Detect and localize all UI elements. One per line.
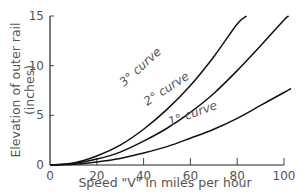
y-axis-label: Elevation of outer rail bbox=[8, 22, 23, 157]
y-axis-units: (inches) bbox=[22, 65, 37, 115]
x-tick-label: 0 bbox=[46, 169, 54, 183]
curve-labels: 3° curve2° curve1° curve bbox=[117, 45, 219, 129]
curve-label: 2° curve bbox=[141, 69, 191, 109]
y-tick-label: 0 bbox=[36, 158, 44, 172]
curve-label: 3° curve bbox=[117, 45, 164, 90]
y-tick-label: 5 bbox=[36, 108, 44, 122]
elevation-chart: 020406080100051015 3° curve2° curve1° cu… bbox=[0, 0, 307, 195]
y-tick-label: 15 bbox=[29, 9, 44, 23]
x-tick-label: 100 bbox=[273, 169, 296, 183]
x-axis-label: Speed "V" in miles per hour bbox=[78, 175, 252, 190]
